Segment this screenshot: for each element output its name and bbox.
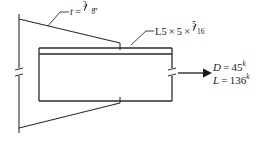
double-angle-member <box>39 48 176 101</box>
leader-line-icon-angle <box>131 31 154 45</box>
break-tick-icon-left-top <box>15 68 23 70</box>
angle-leader-diagonal <box>131 31 146 45</box>
plate-thickness-label: t = 38″ <box>70 4 98 17</box>
support-column-face <box>15 14 23 133</box>
leader-line-icon-thickness <box>48 12 69 26</box>
live-load-unit: k <box>246 73 249 81</box>
dead-load-symbol: D <box>213 61 221 73</box>
angle-thickness-fraction: 516 <box>192 24 203 35</box>
load-arrow-head <box>203 69 212 78</box>
angle-designation-label: L5 × 5 × 516 <box>155 24 203 37</box>
load-annotations: D = 45k L = 136k <box>213 61 249 87</box>
live-load-label: L = 136k <box>213 74 249 86</box>
dead-load-label: D = 45k <box>213 61 249 73</box>
live-load-value: 136 <box>230 74 247 86</box>
gusset-top-edge <box>19 19 120 43</box>
angle-designation: L5 <box>155 26 167 37</box>
break-tick-icon-right-bottom <box>168 74 176 76</box>
gusset-bottom-edge <box>19 103 120 128</box>
gusset-plate-outline <box>19 19 120 128</box>
thickness-fraction: 38 <box>83 4 94 15</box>
dead-load-unit: k <box>243 60 246 68</box>
dead-load-value: 45 <box>232 61 243 73</box>
break-tick-icon-right-top <box>168 68 176 70</box>
connection-detail-figure: t = 38″ L5 × 5 × 516 D = 45k L = 136k <box>0 0 266 142</box>
arrow-right-icon-load <box>178 69 212 78</box>
thickness-fraction-denominator: 8 <box>92 8 96 16</box>
break-tick-icon-left-bottom <box>15 74 23 76</box>
thickness-leader-diagonal <box>48 12 60 26</box>
angle-fraction-denominator: 16 <box>197 28 204 36</box>
